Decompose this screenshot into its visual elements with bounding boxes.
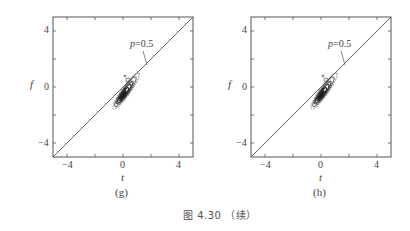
ylabel: f <box>30 78 33 90</box>
p-annotation: p=0.5 <box>328 38 351 49</box>
ytick-0: 0 <box>242 81 247 92</box>
ytick-4: 4 <box>242 24 247 35</box>
xtick-4: 4 <box>176 159 181 170</box>
ytick-neg4: −4 <box>236 137 247 148</box>
ylabel: f <box>228 78 231 90</box>
panel-label: (h) <box>313 186 326 198</box>
ytick-neg4: −4 <box>38 137 49 148</box>
panel-label: (g) <box>115 186 128 198</box>
ytick-4: 4 <box>44 24 49 35</box>
plot-h <box>198 0 403 205</box>
ytick-0: 0 <box>44 81 49 92</box>
xtick-0: 0 <box>120 159 125 170</box>
xlabel: t <box>319 171 322 183</box>
figure-caption: 图 4.30 （续） <box>183 207 257 222</box>
plot-g <box>0 0 205 205</box>
p-annotation: p=0.5 <box>130 38 153 49</box>
xtick-4: 4 <box>374 159 379 170</box>
xtick-neg4: −4 <box>62 159 73 170</box>
xtick-neg4: −4 <box>260 159 271 170</box>
panel-g: 4 0 −4 −4 0 4 f t (g) p=0.5 <box>0 0 205 205</box>
panel-h: 4 0 −4 −4 0 4 f t (h) p=0.5 <box>198 0 403 205</box>
xtick-0: 0 <box>318 159 323 170</box>
xlabel: t <box>121 171 124 183</box>
